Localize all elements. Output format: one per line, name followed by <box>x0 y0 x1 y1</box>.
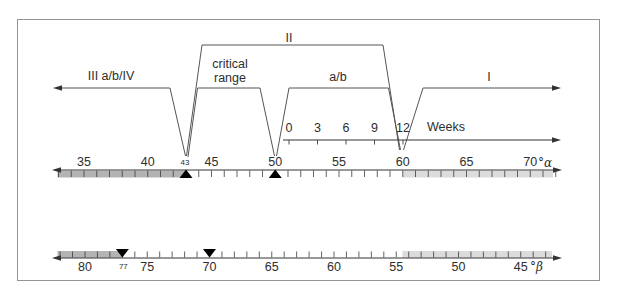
alpha-scale-label: 50 <box>268 156 282 168</box>
beta-scale-label: 80 <box>78 261 92 273</box>
beta-scale-label: 50 <box>452 261 466 273</box>
critical-range-label-line1: critical <box>195 57 265 71</box>
weeks-tick-label: 0 <box>286 122 293 134</box>
beta-minor-label: 77 <box>119 263 128 271</box>
weeks-tick-label: 3 <box>314 122 321 134</box>
alpha-scale-label: 40 <box>141 156 155 168</box>
beta-scale-label: 45 <box>514 261 528 273</box>
region-ii-label: II <box>274 31 304 45</box>
critical-range-label-line2: range <box>195 71 265 85</box>
alpha-scale-label: 70 <box>523 156 537 168</box>
beta-scale-label: 60 <box>327 261 341 273</box>
region-i-label: I <box>469 70 509 84</box>
weeks-tick-label: 6 <box>343 122 350 134</box>
alpha-scale-label: 45 <box>205 156 219 168</box>
region-iii-label: III a/b/IV <box>56 69 166 83</box>
beta-scale-label: 55 <box>389 261 403 273</box>
weeks-tick-label: 9 <box>371 122 378 134</box>
beta-scale-label: 65 <box>265 261 279 273</box>
beta-scale-label: 70 <box>203 261 217 273</box>
alpha-unit-label: °α <box>538 157 552 169</box>
alpha-scale-label: 55 <box>332 156 346 168</box>
alpha-minor-label: 43 <box>181 159 190 167</box>
alpha-scale-label: 60 <box>396 156 410 168</box>
beta-scale-label: 75 <box>140 261 154 273</box>
alpha-scale-label: 65 <box>460 156 474 168</box>
weeks-tick-label: 12 <box>396 122 410 134</box>
beta-unit-label: °β <box>530 261 543 273</box>
critical-range-label: critical range <box>195 57 265 85</box>
alpha-scale-label: 35 <box>77 156 91 168</box>
region-ab-label: a/b <box>318 70 358 84</box>
diagram-canvas: III a/b/IV II critical range a/b I Weeks… <box>0 0 619 300</box>
labels-layer: III a/b/IV II critical range a/b I Weeks… <box>0 0 619 300</box>
weeks-axis-title: Weeks <box>427 120 465 134</box>
